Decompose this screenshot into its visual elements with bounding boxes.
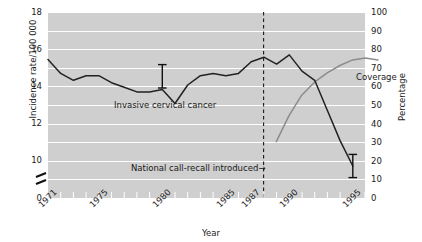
y-axis-left-title: Incidence rate/100 000 [28, 4, 38, 134]
y-axis-break-icon [34, 170, 48, 192]
y-axis-right-tick-100: 100 [371, 8, 395, 17]
y-axis-right-tick-50: 50 [371, 101, 395, 110]
y-axis-right-tick-90: 90 [371, 27, 395, 36]
y-axis-right-title: Percentage [397, 57, 407, 137]
y-axis-right-tick-60: 60 [371, 82, 395, 91]
y-axis-right-tick-40: 40 [371, 120, 395, 129]
arrow-icon: → [258, 163, 265, 173]
y-axis-right-tick-10: 10 [371, 175, 395, 184]
y-axis-right-tick-70: 70 [371, 64, 395, 73]
invasive-cervical-cancer-line [48, 55, 353, 166]
national-call-recall-text: National call-recall introduced [131, 163, 258, 173]
y-axis-right-tick-0: 0 [371, 194, 395, 203]
national-call-recall-annotation: National call-recall introduced→ [131, 163, 265, 173]
y-axis-right-tick-30: 30 [371, 138, 395, 147]
coverage-line [276, 58, 378, 142]
error-bar-1995 [349, 154, 358, 177]
y-axis-left-tick-10: 10 [20, 156, 42, 165]
y-axis-right-tick-20: 20 [371, 157, 395, 166]
invasive-cervical-cancer-label: Invasive cervical cancer [114, 100, 216, 110]
x-axis-title: Year [0, 228, 422, 238]
error-bar-1980 [158, 65, 167, 88]
y-axis-right-tick-80: 80 [371, 45, 395, 54]
chart-figure: Invasive cervical cancer Coverage Nation… [0, 0, 422, 242]
